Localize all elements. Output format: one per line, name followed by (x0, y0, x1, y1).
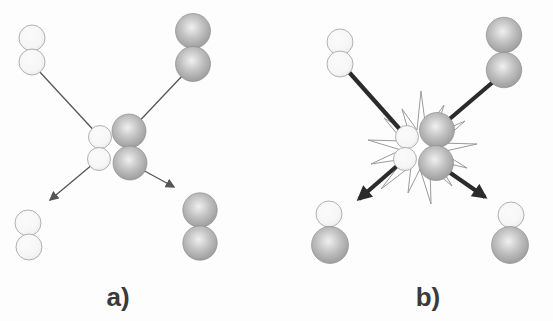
gray-atom (112, 114, 146, 148)
gray-atom (113, 146, 147, 180)
white-atom (498, 202, 524, 228)
gray-atom (492, 227, 529, 264)
gray-atom (176, 14, 211, 49)
gray-atom (183, 226, 218, 261)
gray-atom (312, 227, 349, 264)
white-atom (19, 25, 45, 51)
gray-atom (176, 47, 211, 82)
white-atom (394, 148, 417, 171)
figure-background (0, 0, 553, 321)
gray-atom (419, 146, 454, 181)
panel-b-label: b) (416, 282, 441, 312)
gray-atom (183, 193, 218, 228)
gray-atom (420, 113, 455, 148)
white-atom (15, 210, 41, 236)
white-atom (396, 126, 419, 149)
collision-diagram-figure: a) (0, 0, 553, 321)
white-atom (88, 148, 111, 171)
gray-atom (486, 52, 522, 88)
panel-a-label: a) (106, 282, 129, 312)
white-atom (316, 201, 342, 227)
collision-diagram-canvas: a) (0, 0, 553, 321)
white-atom (19, 49, 45, 75)
white-atom (89, 126, 112, 149)
white-atom (327, 51, 353, 77)
gray-atom (486, 17, 522, 53)
white-atom (16, 234, 42, 260)
